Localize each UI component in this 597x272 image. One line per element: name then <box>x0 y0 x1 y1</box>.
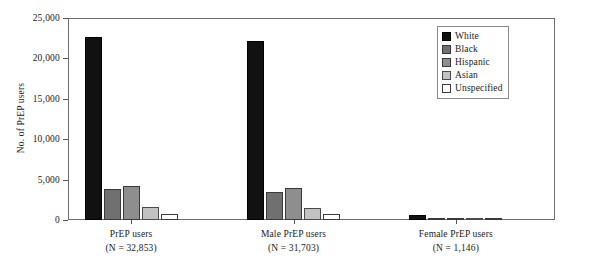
legend-item-label: Asian <box>455 69 478 82</box>
bar-asian-2 <box>304 208 321 220</box>
y-axis-tick-mark <box>63 220 68 221</box>
legend-item-label: Black <box>455 43 478 56</box>
bar-asian-3 <box>466 218 483 220</box>
y-axis-tick-label: 20,000 <box>8 53 60 63</box>
bar-chart-figure: No. of PrEP users 05,00010,00015,00020,0… <box>0 0 597 272</box>
bar-white-2 <box>247 41 264 220</box>
x-axis-group-label: PrEP users(N = 32,853) <box>51 228 211 255</box>
bar-black-1 <box>104 189 121 220</box>
x-axis-tick-mark <box>294 220 295 224</box>
y-axis-tick-label: 10,000 <box>8 134 60 144</box>
bar-black-2 <box>266 192 283 220</box>
legend-swatch-icon <box>442 58 451 67</box>
bar-white-3 <box>409 215 426 220</box>
legend-swatch-icon <box>442 45 451 54</box>
bar-asian-1 <box>142 207 159 220</box>
y-axis-tick-mark <box>63 58 68 59</box>
y-axis-tick-label: 25,000 <box>8 13 60 23</box>
bar-hispanic-1 <box>123 186 140 220</box>
x-axis-group-label-count: (N = 31,703) <box>214 242 374 256</box>
legend-item-label: White <box>455 30 479 43</box>
x-axis-group-label: Male PrEP users(N = 31,703) <box>214 228 374 255</box>
x-axis-tick-mark <box>131 220 132 224</box>
legend-item-black: Black <box>442 43 503 56</box>
legend-item-asian: Asian <box>442 69 503 82</box>
y-axis-tick-label: 15,000 <box>8 94 60 104</box>
y-axis-tick-mark <box>63 18 68 19</box>
legend-swatch-icon <box>442 84 451 93</box>
x-axis-group-label-name: Male PrEP users <box>261 229 326 239</box>
legend-swatch-icon <box>442 32 451 41</box>
bar-black-3 <box>428 218 445 220</box>
x-axis-group-label-name: Female PrEP users <box>419 229 493 239</box>
x-axis-tick-mark <box>456 220 457 224</box>
legend-item-unspecified: Unspecified <box>442 82 503 95</box>
bar-hispanic-2 <box>285 188 302 220</box>
y-axis-tick-label: 0 <box>8 215 60 225</box>
x-axis-group-label-count: (N = 32,853) <box>51 242 211 256</box>
bar-unspecified-3 <box>485 218 502 220</box>
chart-legend: WhiteBlackHispanicAsianUnspecified <box>437 26 509 99</box>
bar-white-1 <box>85 37 102 220</box>
y-axis-tick-mark <box>63 99 68 100</box>
y-axis-tick-mark <box>63 180 68 181</box>
y-axis-tick-mark <box>63 139 68 140</box>
legend-swatch-icon <box>442 71 451 80</box>
bar-unspecified-1 <box>161 214 178 220</box>
legend-item-white: White <box>442 30 503 43</box>
bar-group <box>247 18 340 220</box>
legend-item-hispanic: Hispanic <box>442 56 503 69</box>
x-axis-group-label: Female PrEP users(N = 1,146) <box>376 228 536 255</box>
legend-item-label: Hispanic <box>455 56 490 69</box>
bar-unspecified-2 <box>323 214 340 220</box>
x-axis-group-label-count: (N = 1,146) <box>376 242 536 256</box>
legend-item-label: Unspecified <box>455 82 503 95</box>
x-axis-group-label-name: PrEP users <box>110 229 153 239</box>
y-axis-tick-label: 5,000 <box>8 175 60 185</box>
bar-group <box>85 18 178 220</box>
